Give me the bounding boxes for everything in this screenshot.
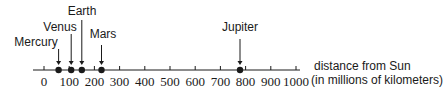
tick-label-0: 0 [41, 74, 48, 89]
arrowhead-icon [79, 61, 84, 65]
axis-title: distance from Sun (in millions of kilome… [311, 59, 443, 87]
planet-dot-icon [79, 67, 85, 73]
planet-label-jupiter: Jupiter [222, 20, 258, 34]
tick-label-600: 600 [185, 74, 205, 89]
planet-mars: Mars [90, 27, 117, 73]
number-line-svg: 0 100 200 300 400 500 600 700 800 900 10… [0, 0, 444, 92]
planet-mercury: Mercury [14, 35, 61, 73]
tick-labels: 0 100 200 300 400 500 600 700 800 900 10… [41, 74, 309, 89]
planet-dot-icon [237, 67, 243, 73]
planet-label-mercury: Mercury [14, 35, 57, 49]
arrowhead-icon [238, 61, 243, 65]
tick-label-500: 500 [160, 74, 180, 89]
arrowhead-icon [99, 61, 104, 65]
tick-label-700: 700 [211, 74, 231, 89]
axis-title-line1: distance from Sun [314, 59, 411, 73]
tick-label-100: 100 [59, 74, 79, 89]
planet-dot-icon [55, 67, 61, 73]
axis-title-line2: (in millions of kilometers) [311, 73, 443, 87]
planet-jupiter: Jupiter [222, 20, 258, 73]
tick-label-200: 200 [85, 74, 105, 89]
planet-dot-icon [68, 67, 74, 73]
planet-label-mars: Mars [90, 27, 117, 41]
tick-label-300: 300 [110, 74, 130, 89]
tick-label-1000: 1000 [283, 74, 309, 89]
tick-label-800: 800 [236, 74, 256, 89]
planet-label-venus: Venus [43, 20, 76, 34]
arrowhead-icon [56, 61, 61, 65]
planet-label-earth: Earth [68, 4, 97, 18]
tick-label-900: 900 [261, 74, 281, 89]
tick-label-400: 400 [135, 74, 155, 89]
number-line-diagram: 0 100 200 300 400 500 600 700 800 900 10… [0, 0, 444, 92]
planet-dot-icon [98, 67, 104, 73]
arrowhead-icon [69, 61, 74, 65]
